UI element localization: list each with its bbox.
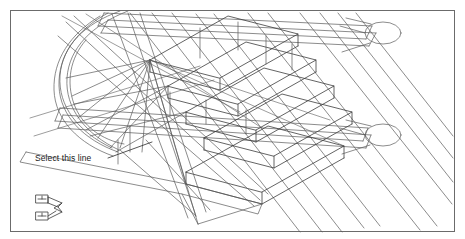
spiral-treads	[54, 11, 186, 156]
handrail-rails	[55, 13, 376, 148]
annotation-label-select-this-line: Select this line	[35, 153, 91, 163]
ucs-isometric-icon	[36, 195, 62, 220]
stair-steps	[150, 16, 352, 204]
cad-drawing-viewport[interactable]: Select this line	[0, 0, 465, 239]
post-upper-right-group	[340, 18, 401, 52]
cad-drawing-canvas[interactable]	[0, 0, 465, 239]
cad-geometry-group	[20, 11, 453, 232]
